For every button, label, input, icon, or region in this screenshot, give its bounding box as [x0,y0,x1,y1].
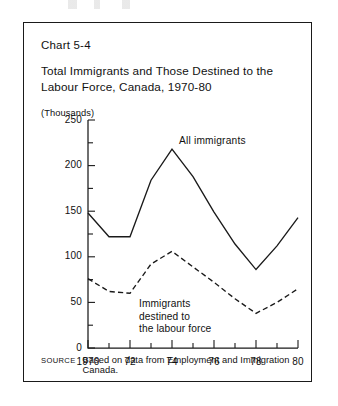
source-note: SOURCE Based on data from Employment and… [41,355,311,375]
y-tick-label: 200 [52,159,82,170]
y-tick-label: 50 [52,296,82,307]
scan-artifact [64,0,184,9]
series-label-all-immigrants: All immigrants [179,135,246,146]
source-tag: SOURCE [41,356,76,365]
y-tick-label: 150 [52,205,82,216]
plot-area: 050100150200250 19707274767880 All immig… [24,23,313,383]
series-label-destined-to-labour-force: Immigrants destined to the labour force [139,298,211,336]
y-tick-label: 0 [52,342,82,353]
y-tick-label: 250 [52,114,82,125]
source-text: Based on data from Employment and Immigr… [83,355,311,375]
figure-container: Chart 5-4 Total Immigrants and Those Des… [23,22,312,382]
series-group [88,149,298,313]
series-line-all-immigrants [88,149,298,269]
destined-label-line-3: the labour force [139,323,211,336]
destined-label-line-2: destined to [139,311,211,324]
y-tick-label: 100 [52,250,82,261]
destined-label-line-1: Immigrants [139,298,211,311]
